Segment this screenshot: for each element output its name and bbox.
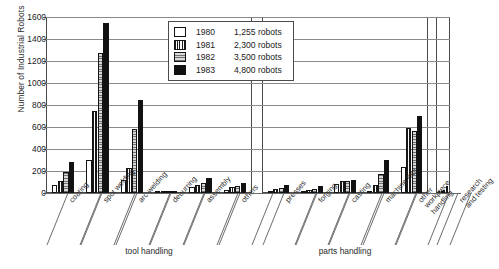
x-axis-category-labels: coatingspot weldingarc weldingdeburringa… (46, 193, 450, 251)
bar (195, 185, 200, 193)
legend-count: 2,300 robots (234, 40, 282, 50)
y-tick-mark (43, 149, 46, 150)
legend-year: 1981 (186, 40, 234, 50)
legend-swatch-1981-icon (174, 40, 186, 50)
y-tick-label: 800 (12, 100, 46, 110)
category-baseline (436, 193, 461, 194)
bar (63, 172, 68, 193)
group-caption-tool-handling: tool handling (46, 247, 252, 256)
y-tick-mark (43, 17, 46, 18)
legend-year: 1983 (186, 65, 234, 75)
y-tick-mark (43, 127, 46, 128)
y-tick-mark (43, 61, 46, 62)
y-tick-label: 400 (12, 144, 46, 154)
y-tick-mark (43, 105, 46, 106)
bar (52, 185, 57, 193)
bar (417, 116, 422, 193)
legend-swatch-1982-icon (174, 52, 186, 62)
bar (69, 162, 74, 193)
y-tick-label: 1000 (12, 78, 46, 88)
chart-legend[interactable]: 1980 1,255 robots 1981 2,300 robots 1982… (168, 21, 294, 81)
legend-count: 3,500 robots (234, 52, 282, 62)
bar (373, 185, 378, 193)
legend-item[interactable]: 1981 2,300 robots (174, 39, 287, 52)
category-baseline (46, 193, 263, 194)
y-tick-label: 1200 (12, 56, 46, 66)
y-tick-label: 0 (12, 188, 46, 198)
legend-year: 1982 (186, 52, 234, 62)
legend-item[interactable]: 1983 4,800 robots (174, 64, 287, 77)
y-tick-mark (43, 39, 46, 40)
y-tick-label: 600 (12, 122, 46, 132)
legend-swatch-1983-icon (174, 65, 186, 75)
gridline (46, 17, 450, 18)
y-tick-label: 1400 (12, 34, 46, 44)
legend-count: 1,255 robots (234, 27, 282, 37)
y-tick-label: 1600 (12, 12, 46, 22)
group-caption-parts-handling: parts handling (262, 247, 428, 256)
y-tick-mark (43, 171, 46, 172)
bar (235, 186, 240, 193)
legend-swatch-1980-icon (174, 27, 186, 37)
legend-year: 1980 (186, 27, 234, 37)
bar (201, 183, 206, 193)
bar (58, 181, 63, 193)
legend-item[interactable]: 1980 1,255 robots (174, 26, 287, 39)
y-tick-mark (43, 83, 46, 84)
y-tick-label: 200 (12, 166, 46, 176)
category-baseline (262, 193, 439, 194)
legend-item[interactable]: 1982 3,500 robots (174, 51, 287, 64)
bar (345, 181, 350, 193)
bar (138, 100, 143, 193)
legend-count: 4,800 robots (234, 65, 282, 75)
